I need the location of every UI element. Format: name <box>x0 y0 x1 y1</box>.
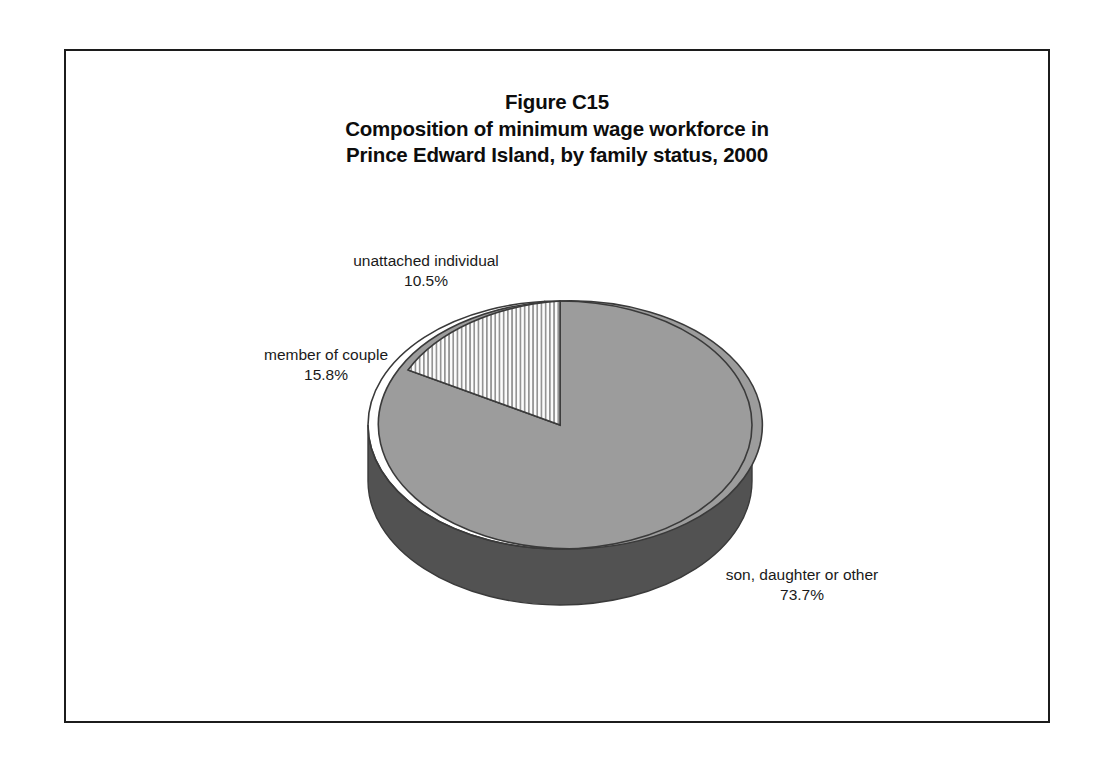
pie-label-value: 15.8% <box>196 365 456 385</box>
pie-chart: unattached individual 10.5% member of co… <box>66 51 1052 725</box>
pie-slice-son-daughter-or-other[interactable] <box>378 301 762 549</box>
pie-label-name: member of couple <box>196 345 456 365</box>
pie-label-name: unattached individual <box>296 251 556 271</box>
pie-label-unattached-individual: unattached individual 10.5% <box>296 251 556 290</box>
figure-frame: Figure C15 Composition of minimum wage w… <box>64 49 1050 723</box>
pie-label-value: 73.7% <box>672 585 932 605</box>
pie-label-name: son, daughter or other <box>672 565 932 585</box>
pie-label-value: 10.5% <box>296 271 556 291</box>
pie-label-member-of-couple: member of couple 15.8% <box>196 345 456 384</box>
pie-top-face <box>378 301 762 549</box>
pie-chart-svg <box>66 51 1052 725</box>
pie-label-son-daughter-or-other: son, daughter or other 73.7% <box>672 565 932 604</box>
